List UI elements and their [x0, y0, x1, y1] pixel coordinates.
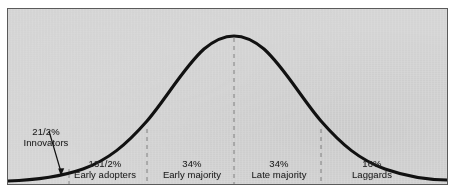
segment-name-innovators: Innovators	[8, 137, 84, 148]
segment-label-innovators: 21/2% Innovators	[8, 126, 84, 148]
adoption-curve-figure: 21/2% Innovators 131/2% Early adopters 3…	[0, 0, 455, 196]
segment-name-early-majority: Early majority	[150, 169, 234, 180]
segment-percent-early-majority: 34%	[150, 158, 234, 169]
segment-percent-late-majority: 34%	[237, 158, 321, 169]
segment-label-early-adopters: 131/2% Early adopters	[63, 158, 147, 180]
segment-name-late-majority: Late majority	[237, 169, 321, 180]
segment-percent-laggards: 16%	[330, 158, 414, 169]
segment-name-early-adopters: Early adopters	[63, 169, 147, 180]
segment-label-laggards: 16% Laggards	[330, 158, 414, 180]
segment-name-laggards: Laggards	[330, 169, 414, 180]
segment-percent-early-adopters: 131/2%	[63, 158, 147, 169]
segment-label-early-majority: 34% Early majority	[150, 158, 234, 180]
segment-percent-innovators: 21/2%	[8, 126, 84, 137]
segment-label-late-majority: 34% Late majority	[237, 158, 321, 180]
